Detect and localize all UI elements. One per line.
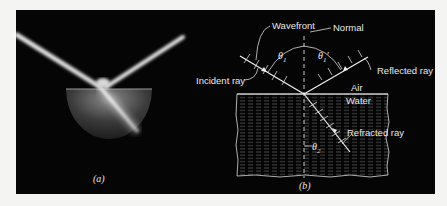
label-incident-ray: Incident ray (196, 76, 245, 86)
incident-ray (240, 56, 304, 94)
diagram-panel-b (0, 0, 447, 206)
label-theta2: θ2 (312, 142, 320, 155)
incident-leader (244, 68, 258, 80)
wavefront-leader (256, 26, 270, 60)
label-theta1-prime: θ1′ (318, 51, 329, 64)
caption-b: (b) (299, 181, 311, 191)
label-theta1: θ1 (278, 51, 286, 64)
reflected-leader (364, 58, 371, 70)
label-air: Air (351, 83, 363, 93)
label-refracted-ray: Refracted ray (347, 128, 404, 138)
label-reflected-ray: Reflected ray (377, 66, 433, 76)
label-water: Water (346, 96, 371, 106)
label-normal: Normal (333, 23, 364, 33)
label-wavefront: Wavefront (272, 21, 315, 31)
